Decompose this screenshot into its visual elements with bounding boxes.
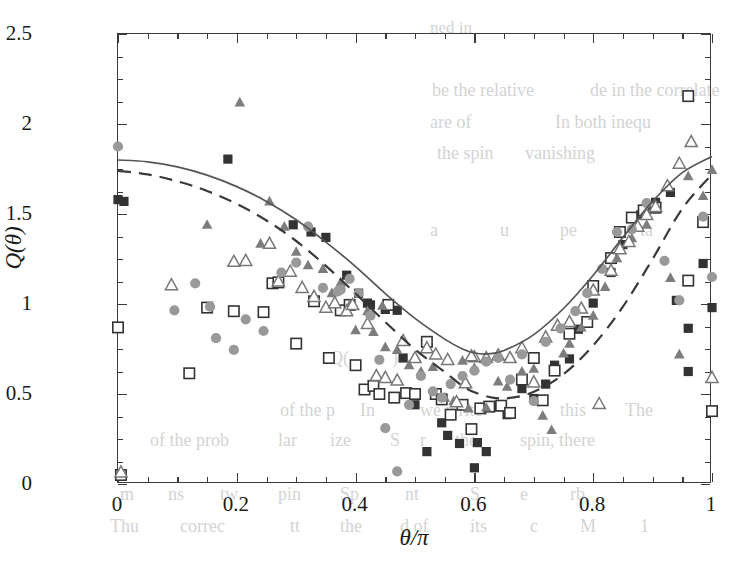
x-tick-bottom [712,473,713,482]
y-tick-right [701,484,710,485]
series-open-square [113,91,717,480]
data-point-filled-circle [541,337,551,347]
showthrough-text: ns [168,484,184,505]
data-point-filled-circle [113,141,123,151]
data-point-filled-triangle [558,348,569,358]
data-point-open-triangle [329,297,341,308]
data-point-open-triangle [240,254,252,265]
data-point-filled-circle [659,256,669,266]
data-point-filled-circle [698,212,708,222]
data-point-filled-circle [570,306,580,316]
data-point-filled-square [455,439,464,448]
data-point-open-square [229,306,239,316]
data-point-filled-circle [707,272,717,282]
showthrough-text: pin [278,484,301,505]
y-axis-label: Q(θ) [1,226,27,269]
data-point-open-square [258,307,268,317]
showthrough-text: c [530,516,538,537]
data-point-filled-triangle [202,219,213,229]
data-point-open-triangle [593,398,605,409]
data-point-filled-circle [276,267,286,277]
data-point-open-square [505,408,515,418]
y-tick-label: 2 [0,111,32,136]
data-point-open-square [410,389,420,399]
x-tick-label: 1 [671,492,751,517]
data-point-open-triangle [528,376,540,387]
data-point-filled-circle [291,258,301,268]
data-point-filled-square [470,463,479,472]
data-point-filled-circle [211,333,221,343]
data-point-filled-square [684,367,693,376]
showthrough-text: the [340,516,362,537]
data-point-filled-square [482,447,491,456]
data-point-open-square [184,368,194,378]
showthrough-text: e [520,484,528,505]
x-tick-label: 0.6 [433,492,513,517]
y-tick-label: 0.5 [0,381,32,406]
data-point-filled-square [399,353,408,362]
showthrough-text: M [580,516,596,537]
data-point-open-triangle [673,157,685,168]
data-point-filled-square [223,155,232,164]
showthrough-text: its [470,516,487,537]
data-point-open-triangle [391,374,403,385]
x-axis-label: θ/π [399,525,428,551]
data-point-filled-square [589,299,598,308]
data-point-filled-circle [437,393,447,403]
data-point-open-square [707,406,717,416]
data-point-open-square [324,353,334,363]
data-point-filled-circle [529,396,539,406]
series-solid-curve [118,156,712,354]
data-point-open-square [350,360,360,370]
data-point-filled-circle [428,386,438,396]
data-point-filled-circle [582,288,592,298]
data-point-filled-triangle [291,246,302,256]
data-point-open-triangle [706,371,718,382]
data-point-filled-triangle [674,349,685,359]
data-point-open-triangle [685,136,697,147]
data-point-filled-square [707,303,716,312]
data-point-filled-square [473,438,482,447]
data-point-filled-triangle [665,272,676,282]
showthrough-text: correc [180,516,225,537]
data-point-open-square [538,395,548,405]
data-point-filled-square [698,259,707,268]
data-point-filled-circle [392,466,402,476]
data-point-filled-triangle [546,424,557,434]
figure-container: ned inbe the relativeare ofthe spinIn bo… [0,0,751,576]
data-point-filled-circle [258,326,268,336]
data-point-open-square [517,374,527,384]
data-point-filled-circle [404,400,414,410]
data-point-filled-triangle [380,342,391,352]
data-point-open-square [389,392,399,402]
data-point-filled-triangle [600,281,611,291]
data-point-filled-circle [229,345,239,355]
data-point-open-triangle [296,281,308,292]
data-point-filled-circle [469,366,479,376]
data-point-filled-circle [517,349,527,359]
data-point-filled-triangle [528,363,539,373]
data-point-filled-circle [205,302,215,312]
plot-area [117,33,711,483]
data-canvas [118,34,712,484]
data-point-open-square [291,338,301,348]
data-point-filled-circle [505,375,515,385]
data-point-open-triangle [504,352,516,363]
showthrough-text: 1 [640,516,649,537]
data-point-open-triangle [263,237,275,248]
showthrough-text: nt [405,484,419,505]
y-tick-label: 2.5 [0,21,32,46]
series-dashed-curve [118,171,712,399]
data-point-filled-triangle [493,376,504,386]
data-point-filled-circle [374,355,384,365]
data-point-filled-circle [336,285,346,295]
data-point-filled-triangle [350,325,361,335]
x-tick-label: 0.2 [196,492,276,517]
data-point-filled-circle [345,274,355,284]
data-point-filled-circle [169,305,179,315]
data-point-open-triangle [563,316,575,327]
data-point-filled-circle [457,371,467,381]
data-point-open-triangle [165,279,177,290]
data-point-open-square [683,91,693,101]
data-point-filled-triangle [707,164,718,174]
